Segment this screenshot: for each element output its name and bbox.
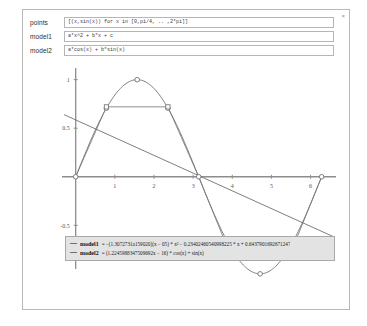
data-point-marker[interactable] — [73, 174, 78, 179]
close-icon[interactable]: × — [341, 13, 345, 19]
model1-input-row: model1 a*x^2 + b*x + c — [30, 30, 334, 42]
y-tick-label: 1 — [67, 77, 70, 83]
legend-entry-model2: model2 = (1.2245988347509692x − 16) * co… — [70, 248, 330, 257]
legend-label-model2: model2 — [80, 250, 99, 256]
curve-model1 — [76, 107, 322, 253]
tool-panel: × points [(x,sin(x)) for x in [0,pi/4, .… — [22, 9, 350, 310]
x-tick-label: 5 — [270, 183, 273, 189]
data-point-marker[interactable] — [258, 272, 263, 277]
data-point-marker[interactable] — [196, 174, 201, 179]
model1-input[interactable]: a*x^2 + b*x + c — [64, 31, 334, 42]
model1-point-marker[interactable] — [104, 105, 108, 109]
x-tick-label: 2 — [152, 183, 155, 189]
x-tick-label: 4 — [231, 183, 234, 189]
points-input-row: points [(x,sin(x)) for x in [0,pi/4, .. … — [30, 16, 334, 28]
legend-box: model1 = −(1.3072731a159020)(x − 05) * x… — [65, 236, 335, 261]
x-tick-label: 3 — [192, 183, 195, 189]
legend-line-icon — [70, 243, 77, 244]
data-point-marker[interactable] — [135, 77, 140, 82]
x-tick-label: 1 — [113, 183, 116, 189]
model2-input[interactable]: a*cos(x) + b*sin(x) — [64, 45, 334, 56]
legend-line-icon — [70, 252, 77, 253]
legend-equation-model1: = −(1.3072731a159020)(x − 05) * x² − 0.2… — [102, 241, 291, 247]
model1-input-label: model1 — [30, 33, 60, 40]
legend-equation-model2: = (1.2245988347509692x − 16) * cos(x) + … — [102, 250, 204, 256]
y-tick-label: -0.5 — [60, 223, 69, 229]
plot-area[interactable]: 123456-0.50.51 — [24, 60, 350, 309]
legend-label-model1: model1 — [80, 241, 99, 247]
model1-point-marker[interactable] — [166, 105, 170, 109]
points-input[interactable]: [(x,sin(x)) for x in [0,pi/4, .. ,2*pi]] — [64, 17, 334, 28]
model2-input-label: model2 — [30, 47, 60, 54]
plot-svg: 123456-0.50.51 — [24, 60, 350, 309]
legend-entry-model1: model1 = −(1.3072731a159020)(x − 05) * x… — [70, 239, 330, 248]
x-tick-label: 6 — [309, 183, 312, 189]
tick-labels-layer: 123456-0.50.51 — [60, 77, 312, 229]
points-input-label: points — [30, 19, 60, 26]
data-point-marker[interactable] — [319, 174, 324, 179]
model2-input-row: model2 a*cos(x) + b*sin(x) — [30, 44, 334, 56]
app-root: × points [(x,sin(x)) for x in [0,pi/4, .… — [0, 0, 367, 326]
y-tick-label: 0.5 — [62, 125, 69, 131]
